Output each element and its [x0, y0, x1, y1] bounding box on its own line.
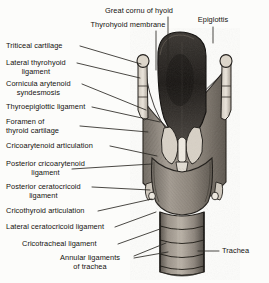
- label-foramen-of-thyroid-cartilage-line2: thyroid cartilage: [6, 127, 59, 136]
- label-cricothyroid-articulation: Cricothyroid articulation: [6, 207, 84, 216]
- label-posterior-cricoarytenoid-ligament: Posterior cricoarytenoidligament: [6, 160, 85, 177]
- label-triticeal-cartilage: Triticeal cartilage: [6, 42, 63, 51]
- label-cornicula-arytenoid-syndesmosis-line2: syndesmosis: [6, 89, 71, 98]
- label-epiglottis-line1: Epiglottis: [0, 16, 269, 25]
- label-lateral-thyrohyoid-ligament-line2: ligament: [6, 68, 66, 77]
- label-triticeal-cartilage-line1: Triticeal cartilage: [6, 42, 63, 51]
- label-lateral-thyrohyoid-ligament: Lateral thyrohyoidligament: [6, 59, 66, 76]
- label-thyroepiglottic-ligament-line1: Thyroepiglottic ligament: [6, 103, 85, 112]
- label-thyroepiglottic-ligament: Thyroepiglottic ligament: [6, 103, 85, 112]
- label-lateral-ceratocricoid-ligament-line1: Lateral ceratocricoid ligament: [6, 223, 104, 232]
- label-foramen-of-thyroid-cartilage: Foramen ofthyroid cartilage: [6, 118, 59, 135]
- label-great-cornu-of-hyoid-line1: Great cornu of hyoid: [0, 7, 269, 16]
- label-posterior-ceratocricoid-ligament-line2: ligament: [6, 192, 81, 201]
- label-cornicula-arytenoid-syndesmosis: Cornicula arytenoidsyndesmosis: [6, 80, 71, 97]
- label-great-cornu-of-hyoid: Great cornu of hyoid: [0, 7, 269, 16]
- label-posterior-cricoarytenoid-ligament-line2: ligament: [6, 169, 85, 178]
- label-cricoarytenoid-articulation: Cricoarytenoid articulation: [6, 142, 93, 151]
- label-cricotracheal-ligament-line1: Cricotracheal ligament: [22, 240, 97, 249]
- label-cricothyroid-articulation-line1: Cricothyroid articulation: [6, 207, 84, 216]
- label-posterior-ceratocricoid-ligament: Posterior ceratocricoidligament: [6, 183, 81, 200]
- anatomical-figure: Great cornu of hyoidThyrohyoid membraneE…: [0, 0, 269, 283]
- label-epiglottis: Epiglottis: [0, 16, 269, 25]
- label-lateral-ceratocricoid-ligament: Lateral ceratocricoid ligament: [6, 223, 104, 232]
- label-trachea: Trachea: [222, 247, 249, 256]
- label-trachea-line1: Trachea: [222, 247, 249, 256]
- label-annular-ligaments-of-trachea-line2: of trachea: [60, 263, 120, 272]
- label-annular-ligaments-of-trachea: Annular ligamentsof trachea: [60, 254, 120, 271]
- label-cricoarytenoid-articulation-line1: Cricoarytenoid articulation: [6, 142, 93, 151]
- label-cricotracheal-ligament: Cricotracheal ligament: [22, 240, 97, 249]
